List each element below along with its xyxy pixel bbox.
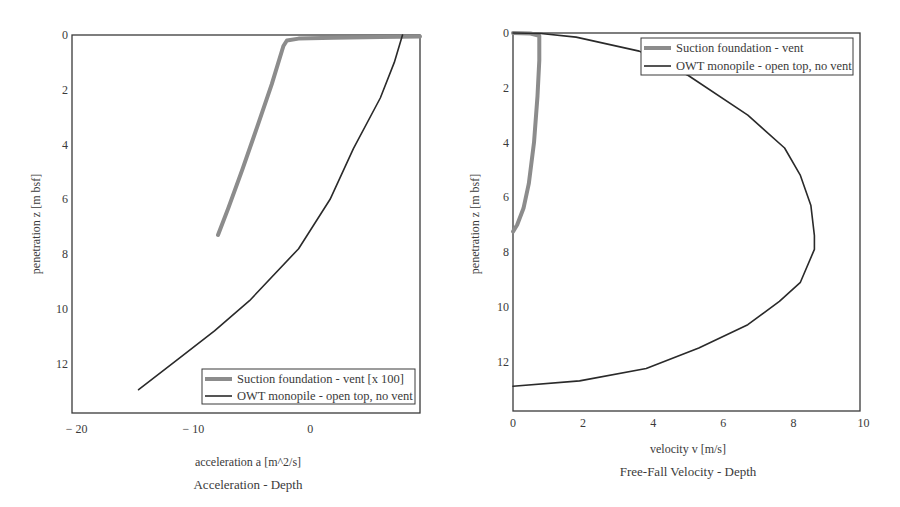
legend-label-monopile: OWT monopile - open top, no vent (237, 389, 413, 403)
y-tick-label: 0 (503, 26, 509, 40)
x-axis-label: acceleration a [m^2/s] (195, 455, 301, 469)
legend-label-monopile: OWT monopile - open top, no vent (676, 59, 852, 73)
y-tick-label: 12 (497, 355, 509, 369)
x-tick-label: 4 (650, 416, 656, 430)
chart-title: Acceleration - Depth (193, 477, 303, 492)
y-tick-label: 6 (503, 190, 509, 204)
x-tick-label: 0 (510, 416, 516, 430)
y-tick-label: 2 (62, 83, 68, 97)
x-tick-label: 0 (307, 422, 313, 436)
y-axis-label: penetration z [m bsf] (468, 174, 482, 274)
series-line (513, 33, 814, 386)
legend: Suction foundation - vent OWT monopile -… (641, 38, 853, 75)
y-tick-label: 12 (56, 357, 68, 371)
figure: 024681012 − 20− 100 Suction foundation -… (0, 0, 900, 507)
series-line (218, 36, 420, 235)
x-axis-label: velocity v [m/s] (650, 442, 726, 456)
legend-label-suction: Suction foundation - vent [x 100] (237, 372, 404, 386)
y-tick-label: 6 (62, 192, 68, 206)
x-tick-label: 10 (858, 416, 870, 430)
legend-label-suction: Suction foundation - vent (676, 41, 804, 55)
y-tick-label: 8 (62, 247, 68, 261)
x-tick-label: − 20 (66, 422, 88, 436)
x-tick-label: 8 (790, 416, 796, 430)
chart-acceleration-depth: 024681012 − 20− 100 Suction foundation -… (29, 28, 420, 492)
series-lines (139, 35, 420, 390)
x-ticks: − 20− 100 (66, 422, 313, 436)
plot-frame (72, 35, 420, 413)
x-tick-label: 6 (720, 416, 726, 430)
y-tick-label: 8 (503, 245, 509, 259)
x-ticks: 0246810 (510, 416, 870, 430)
y-tick-label: 10 (56, 302, 68, 316)
y-tick-label: 0 (62, 28, 68, 42)
y-ticks: 024681012 (497, 26, 509, 369)
plot-frame (513, 33, 860, 411)
y-axis-label: penetration z [m bsf] (29, 174, 43, 274)
chart-velocity-depth: 024681012 0246810 Suction foundation - v… (468, 26, 870, 479)
y-tick-label: 10 (497, 300, 509, 314)
y-ticks: 024681012 (56, 28, 68, 371)
legend: Suction foundation - vent [x 100] OWT mo… (202, 369, 415, 404)
series-lines (513, 33, 814, 386)
x-tick-label: 2 (580, 416, 586, 430)
series-line (513, 33, 539, 232)
y-tick-label: 4 (503, 136, 509, 150)
y-tick-label: 4 (62, 138, 68, 152)
x-tick-label: − 10 (183, 422, 205, 436)
chart-title: Free-Fall Velocity - Depth (620, 464, 757, 479)
y-tick-label: 2 (503, 81, 509, 95)
